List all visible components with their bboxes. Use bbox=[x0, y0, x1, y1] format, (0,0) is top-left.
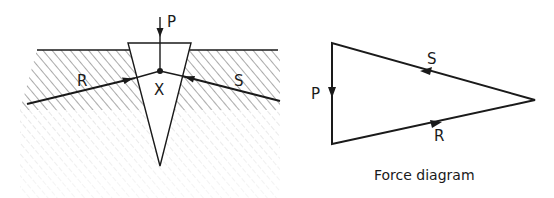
force-label-p: P bbox=[311, 85, 320, 103]
label-s: S bbox=[234, 72, 244, 90]
label-x: X bbox=[154, 81, 164, 99]
label-p: P bbox=[167, 13, 176, 31]
wedge-diagram: P X R S bbox=[0, 13, 290, 198]
diagram-canvas: P X R S P S R Force diagram bbox=[0, 0, 554, 198]
label-r: R bbox=[77, 72, 87, 90]
arrowhead-icon bbox=[157, 28, 164, 37]
joint-dot bbox=[157, 68, 163, 74]
force-diagram: P S R Force diagram bbox=[311, 43, 535, 183]
force-diagram-caption: Force diagram bbox=[374, 167, 475, 183]
force-label-s: S bbox=[427, 50, 437, 68]
force-label-r: R bbox=[434, 127, 444, 145]
arrowhead-icon bbox=[328, 87, 336, 98]
